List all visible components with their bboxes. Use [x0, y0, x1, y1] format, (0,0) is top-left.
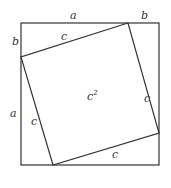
label-inner-right-c: c — [144, 92, 150, 105]
label-area-c-squared: c2 — [87, 89, 98, 103]
label-left-a: a — [10, 107, 17, 120]
label-top-b: b — [141, 9, 148, 22]
label-inner-bottom-c: c — [112, 148, 118, 161]
label-left-b: b — [12, 35, 19, 48]
label-inner-left-c: c — [31, 115, 37, 128]
label-inner-top-c: c — [61, 30, 67, 43]
label-top-a: a — [70, 9, 77, 22]
pythagorean-diagram: a b b a c c c c c2 — [0, 0, 171, 188]
